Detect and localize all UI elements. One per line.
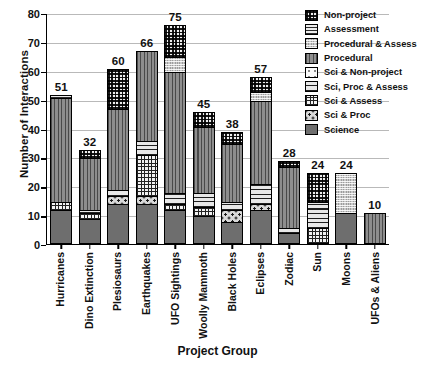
legend-swatch-icon <box>305 81 318 92</box>
bar-column[interactable]: 32 <box>76 14 105 244</box>
bar-segment-procedural[interactable] <box>80 159 100 211</box>
x-label-cell: Plesiosaurs <box>103 252 132 340</box>
legend-item[interactable]: Non-project <box>305 8 427 22</box>
bar-segment-scipa[interactable] <box>222 203 242 212</box>
legend-swatch-icon <box>305 24 318 35</box>
legend-swatch-icon <box>305 38 318 49</box>
bar-segment-science[interactable] <box>165 211 185 243</box>
bar-column[interactable]: 66 <box>133 14 162 244</box>
bar-segment-sciassess[interactable] <box>194 208 214 217</box>
x-tick-label: UFOs & Aliens <box>369 252 381 325</box>
bar-column[interactable]: 45 <box>190 14 219 244</box>
stacked-bar[interactable]: 51 <box>50 95 72 244</box>
bar-segment-scipa[interactable] <box>308 203 328 229</box>
bar-segment-nonproject[interactable] <box>165 26 185 58</box>
bar-column[interactable]: 51 <box>47 14 76 244</box>
y-tick-label: 40 <box>10 124 40 136</box>
x-tick-label: Moons <box>340 252 352 286</box>
bar-segment-procedural[interactable] <box>137 52 157 142</box>
legend-item[interactable]: Sci, Proc & Assess <box>305 79 427 93</box>
stacked-bar[interactable]: 57 <box>250 77 272 244</box>
bar-column[interactable]: 75 <box>161 14 190 244</box>
bar-segment-scipa[interactable] <box>194 194 214 208</box>
stacked-bar[interactable]: 24 <box>335 173 357 244</box>
bar-segment-scipa[interactable] <box>137 142 157 156</box>
bar-segment-sciassess[interactable] <box>308 229 328 243</box>
bar-segment-sciproc[interactable] <box>222 211 242 223</box>
bar-segment-procedural[interactable] <box>108 110 128 191</box>
bar-column[interactable]: 60 <box>104 14 133 244</box>
x-label-cell: Black Holes <box>217 252 246 340</box>
bar-segment-procedural[interactable] <box>51 99 71 203</box>
legend-label: Assessment <box>324 24 379 34</box>
bar-segment-procassess[interactable] <box>336 174 356 214</box>
bar-segment-science[interactable] <box>336 214 356 243</box>
x-tick-label: Black Holes <box>226 252 238 312</box>
stacked-bar[interactable]: 75 <box>164 25 186 244</box>
legend-item[interactable]: Assessment <box>305 22 427 36</box>
bar-segment-sciproc[interactable] <box>137 197 157 206</box>
bar-segment-science[interactable] <box>137 205 157 243</box>
bar-total-label: 32 <box>83 136 96 148</box>
bar-column[interactable]: 57 <box>247 14 276 244</box>
legend-item[interactable]: Procedural <box>305 51 427 65</box>
legend-item[interactable]: Sci & Non-project <box>305 65 427 79</box>
bar-segment-procedural[interactable] <box>165 73 185 194</box>
legend-label: Non-project <box>324 10 376 20</box>
bar-segment-science[interactable] <box>222 223 242 243</box>
bar-segment-science[interactable] <box>279 234 299 243</box>
legend-item[interactable]: Procedural & Assess <box>305 37 427 51</box>
bar-segment-nonproject[interactable] <box>222 133 242 145</box>
bar-column[interactable]: 28 <box>275 14 304 244</box>
bar-segment-nonproject[interactable] <box>308 174 328 203</box>
stacked-bar[interactable]: 66 <box>136 51 158 244</box>
stacked-bar-chart: Number of Interactions 51326066754538572… <box>0 0 427 370</box>
bar-total-label: 10 <box>368 199 381 211</box>
bar-segment-sciassess[interactable] <box>51 203 71 212</box>
x-tick-mark <box>118 244 119 249</box>
stacked-bar[interactable]: 10 <box>364 213 386 244</box>
bar-segment-scipa[interactable] <box>251 185 271 205</box>
stacked-bar[interactable]: 60 <box>107 69 129 244</box>
bar-segment-science[interactable] <box>251 211 271 243</box>
bar-segment-science[interactable] <box>80 220 100 243</box>
legend-label: Sci & Assess <box>324 96 382 106</box>
y-tick-mark <box>41 216 46 217</box>
bar-segment-science[interactable] <box>108 205 128 243</box>
bar-segment-nonproject[interactable] <box>80 151 100 160</box>
stacked-bar[interactable]: 45 <box>193 112 215 244</box>
stacked-bar[interactable]: 28 <box>278 161 300 244</box>
bar-segment-procedural[interactable] <box>279 168 299 229</box>
legend-item[interactable]: Sci & Assess <box>305 94 427 108</box>
bar-segment-procassess[interactable] <box>165 58 185 72</box>
bar-segment-sciproc[interactable] <box>108 197 128 206</box>
bar-segment-scipa[interactable] <box>165 194 185 206</box>
bar-segment-nonproject[interactable] <box>108 70 128 110</box>
bar-column[interactable]: 38 <box>218 14 247 244</box>
bar-segment-procedural[interactable] <box>194 128 214 194</box>
stacked-bar[interactable]: 38 <box>221 132 243 244</box>
legend-item[interactable]: Sci & Proc <box>305 108 427 122</box>
stacked-bar[interactable]: 32 <box>79 150 101 244</box>
bar-segment-procedural[interactable] <box>251 102 271 186</box>
bar-total-label: 66 <box>140 37 153 49</box>
y-tick-label: 30 <box>10 152 40 164</box>
legend-label: Sci & Non-project <box>324 67 402 77</box>
stacked-bar[interactable]: 24 <box>307 173 329 244</box>
bar-segment-procassess[interactable] <box>251 93 271 102</box>
y-tick-label: 80 <box>10 8 40 20</box>
bar-segment-science[interactable] <box>194 217 214 243</box>
y-tick-label: 0 <box>10 239 40 251</box>
bar-segment-procedural[interactable] <box>365 214 385 243</box>
bar-segment-nonproject[interactable] <box>251 78 271 92</box>
x-tick-label: Eclipses <box>254 252 266 295</box>
x-tick-mark <box>260 244 261 249</box>
legend-item[interactable]: Science <box>305 122 427 136</box>
bar-segment-nonproject[interactable] <box>194 113 214 127</box>
x-tick-label: Zodiac <box>283 252 295 286</box>
y-tick-mark <box>41 43 46 44</box>
bar-segment-procedural[interactable] <box>222 145 242 203</box>
bar-segment-sciassess[interactable] <box>137 156 157 196</box>
x-tick-mark <box>203 244 204 249</box>
bar-segment-science[interactable] <box>51 211 71 243</box>
